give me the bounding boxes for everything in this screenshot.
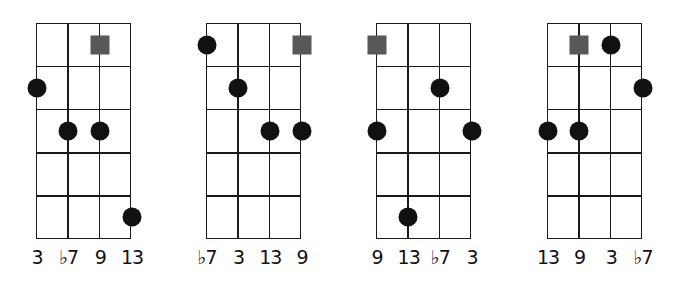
finger-dot-marker	[601, 35, 620, 54]
interval-label: ♭7	[633, 246, 652, 268]
root-square-marker	[570, 35, 589, 54]
finger-dot-marker	[538, 122, 557, 141]
finger-dot-marker	[633, 78, 652, 97]
fret-line	[548, 66, 641, 68]
fret-line	[548, 152, 641, 154]
fret-line	[548, 195, 641, 197]
fretboard-grid	[547, 23, 642, 239]
chord-diagram-4: 1393♭7	[0, 0, 675, 286]
interval-label: 3	[606, 246, 617, 268]
string-line	[610, 24, 612, 238]
fret-line	[548, 109, 641, 111]
interval-label: 9	[574, 246, 585, 268]
finger-dot-marker	[570, 122, 589, 141]
interval-label: 13	[537, 246, 559, 268]
